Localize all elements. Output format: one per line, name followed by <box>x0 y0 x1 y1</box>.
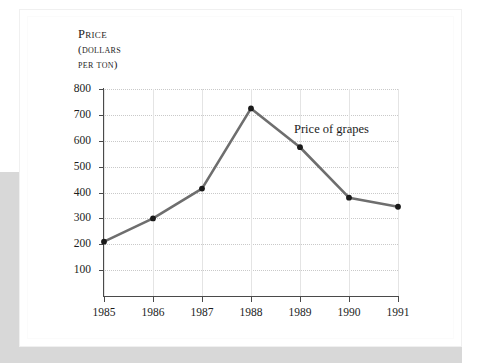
data-point-marker <box>248 106 254 112</box>
data-point-marker <box>297 144 303 150</box>
series-annotation-label: Price of grapes <box>294 122 369 137</box>
data-point-marker <box>150 215 156 221</box>
line-chart-figure: Price (dollars per ton) 1002003004005006… <box>0 0 480 363</box>
series-line-layer <box>0 0 480 363</box>
data-point-marker <box>395 204 401 210</box>
data-point-marker <box>199 186 205 192</box>
data-point-marker <box>101 239 107 245</box>
data-point-marker <box>346 195 352 201</box>
